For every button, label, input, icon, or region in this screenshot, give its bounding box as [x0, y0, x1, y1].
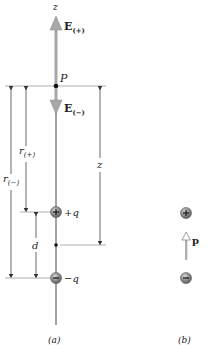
point-p-label: P — [59, 72, 68, 85]
point-p — [54, 84, 59, 89]
positive-charge-label: +q — [64, 207, 79, 218]
e-minus-label: E(−) — [64, 102, 85, 117]
dipole-center — [54, 243, 58, 247]
caption-b: (b) — [178, 335, 191, 345]
e-plus-label: E(+) — [64, 20, 85, 35]
positive-charge-icon — [181, 208, 192, 219]
z-distance-label: z — [96, 159, 103, 170]
caption-a: (a) — [48, 335, 61, 345]
electric-dipole-diagram: z E(+) P E(−) r(+) r(−) — [0, 0, 208, 350]
negative-charge-icon — [51, 273, 62, 284]
z-axis-label: z — [52, 2, 58, 12]
negative-charge-icon — [181, 273, 192, 284]
panel-a: z E(+) P E(−) r(+) r(−) — [3, 2, 106, 345]
negative-charge-label: −q — [64, 273, 79, 284]
dipole-moment-label: p — [192, 235, 199, 246]
panel-b: p (b) — [178, 208, 199, 346]
d-label: d — [32, 240, 38, 251]
positive-charge-icon — [51, 207, 62, 218]
e-minus-arrow-icon — [50, 88, 62, 114]
dipole-moment-arrow-icon — [182, 232, 190, 260]
